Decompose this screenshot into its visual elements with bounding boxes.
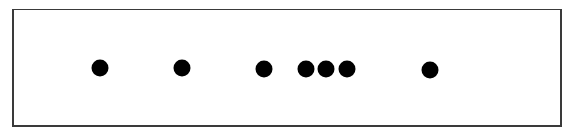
dot xyxy=(92,60,109,77)
dot xyxy=(318,61,335,78)
dot xyxy=(298,61,315,78)
dot xyxy=(256,61,273,78)
dot xyxy=(422,62,439,79)
dot xyxy=(339,61,356,78)
dot xyxy=(174,60,191,77)
